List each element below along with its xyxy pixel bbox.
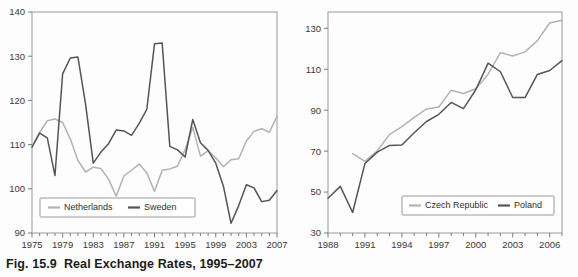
figure-caption: Fig. 15.9 Real Exchange Rates, 1995–2007: [6, 253, 566, 275]
series-line-poland: [328, 61, 562, 213]
x-tick-label: 1997: [428, 239, 449, 250]
y-tick-label: 90: [14, 227, 25, 238]
y-tick-label: 90: [310, 105, 321, 116]
series-line-czech-republic: [353, 20, 562, 161]
x-tick-label: 2003: [236, 239, 257, 250]
x-tick-label: 1988: [317, 239, 338, 250]
x-tick-label: 2000: [465, 239, 486, 250]
x-tick-label: 2006: [539, 239, 560, 250]
legend: Czech RepublicPoland: [402, 196, 554, 215]
y-tick-label: 120: [9, 95, 25, 106]
y-tick-label: 140: [9, 6, 25, 17]
y-tick-label: 130: [305, 23, 321, 34]
x-tick-label: 1995: [175, 239, 196, 250]
x-tick-label: 2007: [266, 239, 287, 250]
legend-label: Netherlands: [64, 202, 113, 212]
legend-label: Czech Republic: [425, 200, 489, 210]
y-tick-label: 110: [10, 139, 25, 150]
x-tick-label: 1983: [83, 239, 104, 250]
legend-label: Poland: [514, 200, 542, 210]
figure-title: Real Exchange Rates, 1995–2007: [64, 257, 263, 271]
x-tick-label: 1991: [144, 239, 165, 250]
x-tick-label: 1987: [113, 239, 134, 250]
y-tick-label: 130: [9, 51, 25, 62]
x-tick-label: 1994: [391, 239, 412, 250]
x-tick-label: 2003: [502, 239, 523, 250]
legend-label: Sweden: [144, 202, 177, 212]
series-line-netherlands: [32, 116, 277, 196]
series-line-sweden: [32, 43, 277, 223]
y-tick-label: 100: [9, 183, 25, 194]
chart-panel-right: 1988199119941997200020032006305070901101…: [290, 0, 578, 250]
x-tick-label: 1991: [354, 239, 375, 250]
y-tick-label: 110: [306, 64, 321, 75]
figure-number: Fig. 15.9: [6, 257, 57, 271]
x-tick-label: 1979: [52, 239, 73, 250]
chart-left-svg: 1975197919831987199119951999200320079010…: [0, 0, 290, 250]
y-tick-label: 30: [310, 227, 321, 238]
x-tick-label: 1975: [21, 239, 42, 250]
legend: NetherlandsSweden: [40, 198, 195, 217]
chart-right-svg: 1988199119941997200020032006305070901101…: [290, 0, 578, 250]
y-tick-label: 50: [310, 186, 321, 197]
y-tick-label: 70: [310, 146, 321, 157]
chart-panel-left: 1975197919831987199119951999200320079010…: [0, 0, 290, 250]
x-tick-label: 1999: [205, 239, 226, 250]
figure-root: 1975197919831987199119951999200320079010…: [0, 0, 578, 277]
